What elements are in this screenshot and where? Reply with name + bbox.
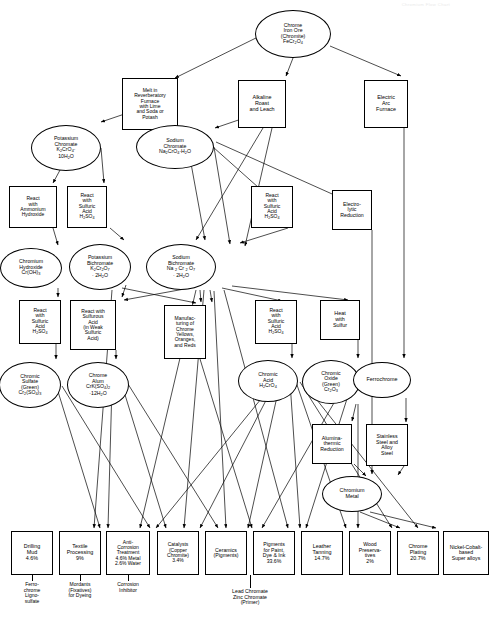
node-react_ammonium: ReactwithAmmoniumHydroxide (9, 186, 57, 228)
end-product-label-anticorrosion: Anti-CorrosionTreatment4.6% Metal2.6% Wa… (114, 540, 142, 566)
node-heat_sulfur: HeatwithSulfur (320, 300, 360, 340)
node-label-react_ammonium: ReactwithAmmoniumHydroxide (19, 196, 46, 217)
node-alumina_thermic: Alumina-thermicReduction (312, 424, 352, 464)
node-chromic_acid: ChromicAcidH2CrO4 (238, 360, 298, 402)
end-product-label-textile: TextileProcessing9% (66, 544, 95, 561)
end-product-label-drilling_mud: DrillingMud4.6% (23, 544, 41, 561)
end-product-label-nickel_cobalt: Nickel-Cobalt-basedSuper alloys (449, 545, 484, 562)
node-sodium_chromate: SodiumChromateNa2CrO4·H2O (136, 125, 214, 169)
end-product-chrome_plating: ChromePlating20.7% (397, 531, 439, 575)
node-react_h2so4_c: ReactwithSulfuricAcidH2SO4 (19, 300, 61, 344)
node-label-chrome_ore: ChromeIron Ore(Chromite)FeCr2O4 (280, 23, 307, 46)
node-label-electric_arc: ElectricArcFurnace (375, 95, 397, 112)
end-product-textile: TextileProcessing9% (59, 531, 101, 575)
end-product-drilling_mud: DrillingMud4.6% (11, 531, 53, 575)
node-label-chromic_sulfate: ChromicSulfate(Green)Cr2(SO4)3 (18, 374, 43, 397)
end-product-label-pigments: Pigmentsfor Paint,Dye & Ink33.6% (262, 542, 287, 564)
node-potassium_bichrom: PotassiumBichromateK2Cr2O7· 2H2O (69, 244, 131, 290)
node-chrome_alum: ChromeAlumCrK(SO4)2·12H2O (67, 362, 129, 408)
node-chromium_hydroxide: ChromiumHydroxideCr(OH)3 (0, 248, 62, 288)
node-sodium_bichrom: SodiumBichromateNa 2 Cr 2 O7· 2H2O (146, 244, 216, 290)
node-label-chromic_acid: ChromicAcidH2CrO4 (257, 372, 278, 389)
header-watermark: Chromium Flow Chart (402, 2, 450, 7)
end-product-label-chrome_plating: ChromePlating20.7% (407, 544, 428, 561)
node-label-chromium_hydroxide: ChromiumHydroxideCr(OH)3 (18, 259, 44, 276)
node-label-manufacturing: Manufac-turing ofChromeYellows,Oranges,a… (173, 316, 196, 348)
node-chromic_oxide: ChromicOxide(Green)Cr2O3 (302, 360, 360, 404)
node-label-react_h2so4_d: ReactwithSulfuricAcidH2SO4 (267, 308, 286, 336)
shared-caption-tick (250, 575, 251, 588)
node-label-chromium_metal: ChromiumMetal (339, 488, 366, 499)
node-chromic_sulfate: ChromicSulfate(Green)Cr2(SO4)3 (0, 362, 61, 408)
node-label-react_sulfurous: React withSulfurousAcid(in WeakSulfuricA… (80, 309, 105, 341)
node-electric_arc: ElectricArcFurnace (364, 80, 408, 128)
node-stainless_steel: StainlessSteel andAlloySteel (366, 424, 408, 466)
node-label-react_h2so4_c: ReactwithSulfuricAcidH2SO4 (31, 308, 50, 336)
end-product-anticorrosion: Anti-CorrosionTreatment4.6% Metal2.6% Wa… (106, 531, 150, 575)
node-label-heat_sulfur: HeatwithSulfur (332, 311, 348, 328)
node-melt_reverb: Melt inReverberatoryFurnacewith Limeand … (122, 78, 178, 130)
node-potassium_chromate: PotassiumChromateK2CrO4·10H2O (31, 125, 101, 171)
shared-caption-lead-zinc-chromate: Lead ChromateZinc Chromate(Primer) (205, 589, 295, 606)
end-product-nickel_cobalt: Nickel-Cobalt-basedSuper alloys (443, 531, 489, 575)
node-react_h2so4_a: ReactwithSulfuricAcidH2SO4 (67, 186, 107, 228)
node-label-alumina_thermic: Alumina-thermicReduction (319, 436, 344, 453)
node-react_h2so4_d: ReactwithSulfuricAcidH2SO4 (255, 300, 297, 344)
node-ferrochrome: Ferrochrome (353, 362, 411, 398)
end-product-label-ceramics: Ceramics(Pigments) (212, 548, 239, 559)
node-label-react_h2so4_b: ReactwithSulfuricAcidH2SO4 (263, 193, 282, 221)
end-product-leather: LeatherTanning14.7% (301, 531, 343, 575)
end-product-caption-anticorrosion: CorrosionInhibitor (100, 582, 156, 593)
node-label-potassium_bichrom: PotassiumBichromateK2Cr2O7· 2H2O (86, 255, 114, 278)
node-label-melt_reverb: Melt inReverberatoryFurnacewith Limeand … (133, 88, 167, 120)
node-react_sulfurous: React withSulfurousAcid(in WeakSulfuricA… (70, 300, 116, 350)
node-label-alkaline_roast: AlkalineRoastand Leach (248, 95, 275, 112)
node-react_h2so4_b: ReactwithSulfuricAcidH2SO4 (251, 186, 293, 228)
node-label-ferrochrome: Ferrochrome (366, 377, 399, 383)
node-electrolytic: Electro-lyticReduction (332, 190, 372, 230)
end-product-wood: WoodPreserva-tives2% (349, 531, 391, 575)
node-manufacturing: Manufac-turing ofChromeYellows,Oranges,a… (164, 305, 206, 359)
node-alkaline_roast: AlkalineRoastand Leach (238, 80, 286, 128)
end-product-label-catalysts: Catalysts(CopperChromite)3.4% (166, 542, 190, 563)
node-chromium_metal: ChromiumMetal (322, 476, 382, 512)
node-label-chrome_alum: ChromeAlumCrK(SO4)2·12H2O (85, 373, 111, 396)
node-label-potassium_chromate: PotassiumChromateK2CrO4·10H2O (53, 136, 79, 159)
node-label-react_h2so4_a: ReactwithSulfuricAcidH2SO4 (78, 193, 97, 221)
end-product-ceramics: Ceramics(Pigments) (205, 531, 247, 575)
node-chrome_ore: ChromeIron Ore(Chromite)FeCr2O4 (255, 10, 331, 58)
end-product-label-leather: LeatherTanning14.7% (312, 544, 333, 561)
end-product-label-wood: WoodPreserva-tives2% (358, 542, 383, 564)
node-label-electrolytic: Electro-lyticReduction (339, 202, 364, 219)
end-product-pigments: Pigmentsfor Paint,Dye & Ink33.6% (253, 531, 295, 575)
node-label-chromic_oxide: ChromicOxide(Green)Cr2O3 (320, 371, 341, 394)
node-label-sodium_chromate: SodiumChromateNa2CrO4·H2O (158, 138, 192, 155)
node-label-stainless_steel: StainlessSteel andAlloySteel (375, 434, 399, 456)
end-product-catalysts: Catalysts(CopperChromite)3.4% (157, 531, 199, 575)
node-label-sodium_bichrom: SodiumBichromateNa 2 Cr 2 O7· 2H2O (166, 255, 196, 278)
